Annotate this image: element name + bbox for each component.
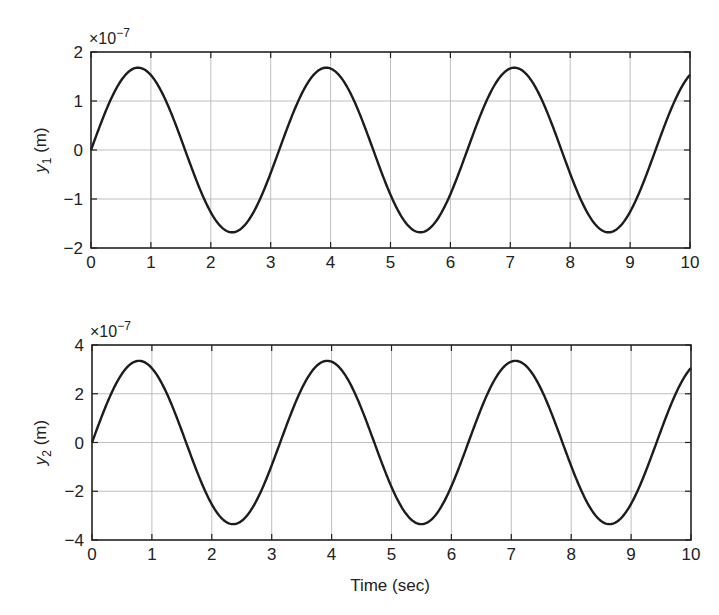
x-tick-label: 8 xyxy=(566,545,575,564)
x-tick-label: 6 xyxy=(446,253,455,272)
y-multiplier: ×10−7 xyxy=(90,319,131,340)
y-axis-label: y2 (m) xyxy=(31,420,54,466)
x-tick-label: 7 xyxy=(506,253,515,272)
x-tick-label: 6 xyxy=(447,545,456,564)
y-tick-label: 0 xyxy=(74,141,83,160)
grid xyxy=(91,52,690,248)
x-tick-label: 3 xyxy=(267,545,276,564)
x-tick-label: 3 xyxy=(266,253,275,272)
x-tick-label: 4 xyxy=(326,253,335,272)
x-tick-label: 9 xyxy=(626,545,635,564)
x-axis-label: Time (sec) xyxy=(350,576,430,595)
plot-y2: 012345678910−4−2024×10−7y2 (m) xyxy=(31,319,700,564)
x-tick-label: 5 xyxy=(386,253,395,272)
y-axis-label: y1 (m) xyxy=(31,127,54,173)
x-tick-label: 7 xyxy=(507,545,516,564)
y-tick-label: −2 xyxy=(64,239,83,258)
x-tick-label: 1 xyxy=(147,545,156,564)
x-tick-label: 2 xyxy=(206,253,215,272)
y-tick-label: 2 xyxy=(75,385,84,404)
x-tick-label: 9 xyxy=(625,253,634,272)
x-tick-label: 5 xyxy=(387,545,396,564)
x-tick-label: 4 xyxy=(327,545,336,564)
grid xyxy=(92,345,691,540)
x-tick-label: 8 xyxy=(565,253,574,272)
y-tick-label: −1 xyxy=(64,190,83,209)
y-tick-label: −4 xyxy=(65,531,84,550)
x-tick-label: 10 xyxy=(681,253,700,272)
plot-y1: 012345678910−2−1012×10−7y1 (m) xyxy=(31,26,699,272)
x-tick-label: 2 xyxy=(207,545,216,564)
x-tick-label: 0 xyxy=(86,253,95,272)
y-tick-label: 1 xyxy=(74,92,83,111)
figure: 012345678910−2−1012×10−7y1 (m) 012345678… xyxy=(0,0,719,615)
y-tick-label: 4 xyxy=(75,336,84,355)
x-tick-label: 1 xyxy=(146,253,155,272)
y-tick-label: 2 xyxy=(74,43,83,62)
y-tick-label: 0 xyxy=(75,434,84,453)
x-tick-label: 0 xyxy=(87,545,96,564)
x-tick-label: 10 xyxy=(682,545,701,564)
y-multiplier: ×10−7 xyxy=(89,26,130,47)
y-tick-label: −2 xyxy=(65,482,84,501)
